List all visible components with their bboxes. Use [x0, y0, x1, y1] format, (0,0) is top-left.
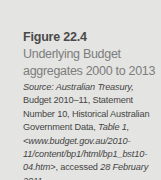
figure-title: Underlying Budget aggregates 2000 to 201…: [23, 46, 161, 80]
source-publisher: Australian Treasury,: [54, 82, 134, 92]
figure-caption: Figure 22.4 Underlying Budget aggregates…: [23, 30, 161, 180]
source-accessed: , accessed: [55, 162, 100, 172]
source-body: Budget 2010–11, Statement Number 10, His…: [23, 95, 149, 132]
figure-label: Figure 22.4: [23, 30, 161, 45]
figure-title-line-2: aggregates 2000 to 2013: [23, 64, 155, 78]
figure-title-line-1: Underlying Budget: [23, 47, 121, 61]
figure-source: Source: Australian Treasury, Budget 2010…: [23, 81, 161, 180]
source-prefix: Source:: [23, 82, 54, 92]
